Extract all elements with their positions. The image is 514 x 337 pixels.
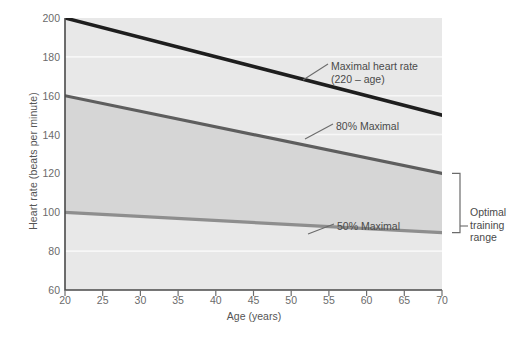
x-tick-50: 50 [271, 294, 311, 306]
x-tick-60: 60 [347, 294, 387, 306]
x-tick-25: 25 [83, 294, 123, 306]
annotation-maximal-heart-rate: Maximal heart rate (220 – age) [331, 60, 418, 85]
annotation-optimal-training-range: Optimal training range [470, 206, 506, 244]
x-tick-20: 20 [45, 294, 85, 306]
x-tick-40: 40 [196, 294, 236, 306]
x-axis-title: Age (years) [65, 310, 443, 322]
x-tick-35: 35 [158, 294, 198, 306]
y-axis-title: Heart rate (beats per minute) [27, 46, 39, 276]
x-axis-tick-labels: 20 25 30 35 40 45 50 55 60 65 70 [0, 294, 514, 310]
heart-rate-training-zone-chart: 200 180 160 140 120 100 80 60 20 25 30 3… [0, 0, 514, 337]
x-tick-45: 45 [234, 294, 274, 306]
chart-plot-area [0, 0, 514, 337]
annotation-80-percent-maximal: 80% Maximal [336, 120, 399, 133]
x-tick-70: 70 [422, 294, 462, 306]
optimal-range-bracket [452, 173, 460, 232]
x-tick-65: 65 [384, 294, 424, 306]
x-tick-55: 55 [309, 294, 349, 306]
y-tick-200: 200 [30, 12, 60, 24]
annotation-50-percent-maximal: 50% Maximal [337, 220, 400, 233]
x-tick-30: 30 [120, 294, 160, 306]
